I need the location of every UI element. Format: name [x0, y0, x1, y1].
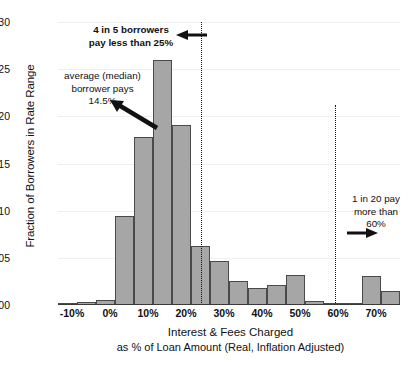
bar-bin-45: [267, 285, 286, 305]
annotation-median: average (median) borrower pays 14.5%: [40, 70, 165, 108]
gridline-0.20: [58, 116, 400, 117]
x-axis-title-line2: as % of Loan Amount (Real, Inflation Adj…: [58, 340, 403, 355]
gridline-0.30: [58, 22, 400, 23]
histogram-chart: Fraction of Borrowers in Rate Range 0.30…: [0, 0, 415, 376]
y-tick-3: 0.15: [0, 158, 10, 170]
annotation-95th-percentile: 1 in 20 pay more than 60%: [338, 193, 414, 231]
plot-area: [58, 22, 400, 305]
gridline-0.05: [58, 258, 400, 259]
y-tick-1: 0.25: [0, 63, 10, 75]
y-axis-title: Fraction of Borrowers in Rate Range: [24, 16, 36, 296]
y-tick-4: 0.10: [0, 205, 10, 217]
bar-bin-50: [286, 275, 305, 305]
y-tick-2: 0.20: [0, 110, 10, 122]
reference-line-80th-percentile: [201, 22, 202, 305]
bar-bin-10: [134, 137, 153, 305]
x-axis-title: Interest & Fees Charged as % of Loan Amo…: [58, 325, 403, 355]
y-tick-6: 0.00: [0, 299, 10, 311]
y-tick-5: 0.05: [0, 252, 10, 264]
bar-bin-20: [172, 125, 191, 305]
bar-bin-5: [115, 216, 134, 305]
bar-bin-35: [229, 281, 248, 305]
x-axis-line: [58, 304, 400, 306]
bar-bin-30: [210, 261, 229, 305]
x-axis-title-line1: Interest & Fees Charged: [58, 325, 403, 340]
annotation-80th-percentile: 4 in 5 borrowers pay less than 25%: [56, 24, 206, 49]
bar-bin-70: [362, 276, 381, 305]
gridline-0.15: [58, 164, 400, 165]
bar-bin-40: [248, 288, 267, 305]
y-tick-0: 0.30: [0, 16, 10, 28]
reference-line-95th-percentile: [335, 105, 336, 305]
x-tick-70: 70%: [354, 307, 398, 319]
